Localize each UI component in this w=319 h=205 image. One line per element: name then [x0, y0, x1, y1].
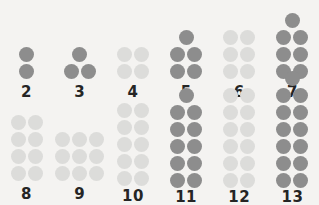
dot-array-11	[170, 88, 202, 188]
dot	[276, 30, 291, 45]
dot	[55, 132, 70, 147]
dot-line	[170, 173, 202, 188]
dot-line	[64, 64, 96, 79]
dot	[117, 47, 132, 62]
dot-line	[170, 105, 202, 120]
dot	[223, 47, 238, 62]
dot	[223, 156, 238, 171]
dot	[223, 105, 238, 120]
dot	[28, 166, 43, 181]
dot-line	[117, 154, 149, 169]
dot	[293, 156, 308, 171]
dot-line	[276, 88, 308, 103]
dot-line	[276, 105, 308, 120]
dot	[187, 139, 202, 154]
number-label-11: 11	[175, 190, 197, 205]
dot	[293, 30, 308, 45]
dot	[117, 120, 132, 135]
dot-array-figure: 234567 8910111213	[0, 0, 319, 205]
number-label-4: 4	[127, 81, 138, 103]
dot	[134, 171, 149, 186]
leftover-dot-line	[179, 88, 194, 103]
dot	[240, 156, 255, 171]
dot	[293, 139, 308, 154]
dot-line	[117, 103, 149, 118]
dot	[134, 154, 149, 169]
dot-line	[223, 64, 255, 79]
number-cell-9: 9	[53, 103, 106, 205]
dot	[187, 105, 202, 120]
dot	[89, 166, 104, 181]
number-cell-13: 13	[266, 103, 319, 205]
number-cell-10: 10	[106, 103, 159, 205]
dot	[223, 173, 238, 188]
dot	[240, 173, 255, 188]
dot	[134, 64, 149, 79]
dot	[170, 173, 185, 188]
number-cell-12: 12	[213, 103, 266, 205]
dot	[276, 122, 291, 137]
leftover-dot-line	[285, 13, 300, 28]
dot-line	[11, 166, 43, 181]
number-label-12: 12	[228, 190, 250, 205]
dot	[285, 71, 300, 86]
number-row-bottom: 8910111213	[0, 103, 319, 205]
dot-line	[223, 88, 255, 103]
dot	[11, 166, 26, 181]
dot	[117, 103, 132, 118]
number-cell-8: 8	[0, 103, 53, 205]
dot	[11, 132, 26, 147]
dot-array-8	[11, 115, 43, 181]
dot-array-13	[276, 71, 308, 188]
dot	[293, 105, 308, 120]
leftover-dot-line	[72, 47, 87, 62]
dot	[89, 132, 104, 147]
dot-line	[11, 115, 43, 130]
dot-line	[223, 105, 255, 120]
dot	[223, 88, 238, 103]
dot-line	[223, 139, 255, 154]
dot	[89, 149, 104, 164]
dot	[134, 103, 149, 118]
dot	[72, 166, 87, 181]
dot-array-6	[223, 30, 255, 79]
dot-line	[276, 47, 308, 62]
dot-array-9	[55, 132, 104, 181]
dot	[117, 137, 132, 152]
dot	[134, 137, 149, 152]
dot	[223, 64, 238, 79]
dot	[293, 88, 308, 103]
dot	[276, 105, 291, 120]
dot	[81, 64, 96, 79]
dot	[55, 166, 70, 181]
dot	[293, 173, 308, 188]
number-label-2: 2	[21, 81, 32, 103]
dot	[134, 120, 149, 135]
dot	[276, 47, 291, 62]
dot	[240, 122, 255, 137]
dot-line	[11, 132, 43, 147]
dot-line	[117, 171, 149, 186]
dot-line	[223, 122, 255, 137]
dot	[170, 139, 185, 154]
dot	[28, 115, 43, 130]
dot-array-4	[117, 47, 149, 79]
dot	[11, 149, 26, 164]
dot	[117, 171, 132, 186]
number-cell-2: 2	[0, 0, 53, 103]
dot	[170, 105, 185, 120]
dot-line	[11, 149, 43, 164]
dot	[223, 139, 238, 154]
number-label-8: 8	[21, 183, 32, 205]
dot-line	[170, 47, 202, 62]
dot	[179, 88, 194, 103]
dot	[240, 105, 255, 120]
dot-array-12	[223, 88, 255, 188]
number-label-9: 9	[74, 183, 85, 205]
dot-line	[117, 120, 149, 135]
dot-line	[117, 47, 149, 62]
dot	[187, 47, 202, 62]
number-cell-3: 3	[53, 0, 106, 103]
dot-line	[276, 122, 308, 137]
dot	[64, 64, 79, 79]
